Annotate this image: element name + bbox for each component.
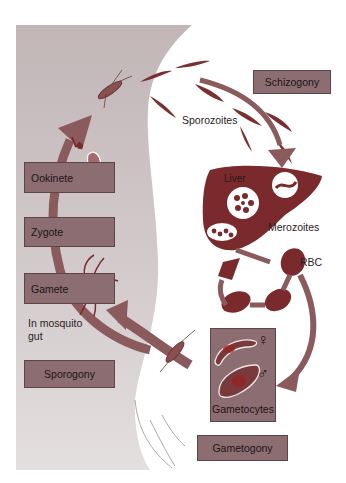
ookinete-label: Ookinete (31, 172, 73, 184)
rbc-label: RBC (300, 256, 322, 268)
liver-label: Liver (224, 173, 246, 184)
arrow-head-gametocytes (276, 368, 300, 392)
male-symbol-icon: ♂ (257, 365, 269, 383)
mosquito-gut-label-line1: In mosquito (28, 317, 82, 329)
merozoite-release-icon (207, 223, 237, 241)
rbc-cycle-icon (218, 245, 309, 317)
gametocytes-box: ♀ ♂ Gametocytes (210, 328, 276, 422)
gametogony-label: Gametogony (212, 442, 272, 454)
zygote-box: Zygote (24, 217, 115, 247)
schizogony-label: Schizogony (265, 76, 319, 88)
zygote-label: Zygote (31, 226, 63, 238)
female-symbol-icon: ♀ (257, 331, 269, 349)
sporozoites-label: Sporozoites (182, 114, 237, 126)
sporogony-box: Sporogony (24, 360, 115, 388)
mosquito-gut-label-line2: gut (28, 330, 43, 342)
gametocytes-label: Gametocytes (212, 403, 274, 415)
arrow-to-gametocytes (292, 275, 313, 378)
sporogony-label: Sporogony (44, 368, 95, 380)
ookinete-box: Ookinete (24, 162, 115, 193)
gamete-box: Gamete (24, 273, 115, 304)
merozoites-label: Merozoites (268, 221, 319, 233)
arrow-head-liver (268, 148, 296, 168)
gametogony-box: Gametogony (197, 435, 288, 461)
gamete-label: Gamete (31, 283, 68, 295)
schizogony-box: Schizogony (253, 70, 331, 94)
malaria-life-cycle-diagram: Schizogony Ookinete Zygote Gamete Sporog… (0, 0, 346, 483)
